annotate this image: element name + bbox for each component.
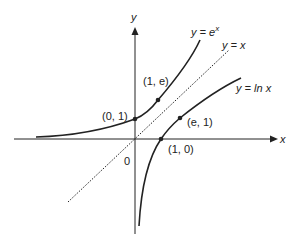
x-axis-label: x [280, 134, 286, 145]
identity-line-label: y = x [222, 40, 246, 51]
point-1-0 [159, 137, 164, 142]
origin-label: 0 [124, 156, 130, 167]
point-label-1-e: (1, e) [143, 76, 169, 87]
point-label-0-1: (0, 1) [102, 111, 128, 122]
point-1-e [156, 98, 161, 103]
exp-curve-label: y = ex [191, 25, 219, 38]
point-e-1 [178, 116, 183, 121]
x-axis-arrow-icon [270, 136, 278, 143]
point-label-e-1: (e, 1) [187, 117, 213, 128]
function-diagram: y x 0 y = ex y = x y = ln x (0, 1) (1, e… [0, 0, 297, 242]
point-0-1 [133, 117, 138, 122]
diagram-canvas [0, 0, 297, 242]
point-label-1-0: (1, 0) [168, 144, 194, 155]
y-axis-arrow-icon [132, 27, 139, 35]
ln-curve-label: y = ln x [236, 83, 271, 94]
y-axis-label: y [131, 12, 137, 23]
